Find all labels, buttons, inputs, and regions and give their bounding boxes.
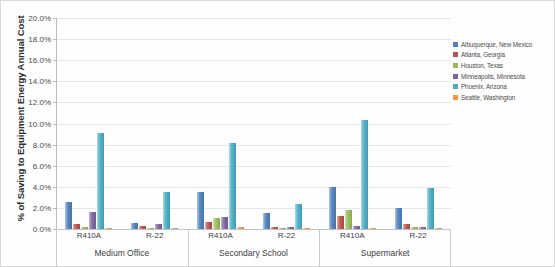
legend-label: Albuquerque, New Mexico — [461, 41, 532, 48]
legend-swatch-icon — [453, 63, 458, 68]
y-axis-tick-label: 14.0% — [28, 77, 51, 86]
y-axis-tick-label: 20.0% — [28, 14, 51, 23]
bar — [427, 188, 434, 229]
bar-group — [56, 18, 122, 229]
axis-separator — [56, 229, 57, 267]
y-axis-tick-label: 2.0% — [33, 203, 51, 212]
bar-groups — [56, 18, 451, 229]
y-axis-title: % of Saving to Equipment Energy Annual C… — [15, 4, 26, 234]
legend-item[interactable]: Minneapolis, Minnesota — [453, 71, 553, 82]
x-axis-tick-label: R410A — [188, 231, 254, 240]
bar-group — [253, 18, 319, 229]
y-axis-tick-label: 18.0% — [28, 35, 51, 44]
x-axis-tick-label: R410A — [56, 231, 122, 240]
legend-swatch-icon — [453, 52, 458, 57]
bar — [163, 192, 170, 229]
plot-area: 0.0%2.0%4.0%6.0%8.0%10.0%12.0%14.0%16.0%… — [56, 18, 451, 229]
x-axis-group-label: Supermarket — [319, 248, 451, 258]
bar — [213, 218, 220, 229]
bar — [295, 204, 302, 229]
bar-chart: % of Saving to Equipment Energy Annual C… — [0, 0, 555, 267]
x-axis-tick-label: R-22 — [385, 231, 451, 240]
y-axis-tick-label: 16.0% — [28, 56, 51, 65]
bar — [97, 133, 104, 229]
legend-swatch-icon — [453, 42, 458, 47]
legend-item[interactable]: Houston, Texas — [453, 60, 553, 71]
bar — [197, 192, 204, 229]
bar — [229, 143, 236, 230]
legend-label: Atlanta, Georgia — [461, 51, 505, 58]
bar — [89, 212, 96, 229]
bar-group — [385, 18, 451, 229]
bar — [263, 213, 270, 229]
y-axis-tick-label: 6.0% — [33, 161, 51, 170]
axis-separator — [188, 229, 189, 267]
bar — [345, 210, 352, 229]
legend-swatch-icon — [453, 95, 458, 100]
bar-group — [319, 18, 385, 229]
category-axis: R410AR-22R410AR-22R410AR-22Medium Office… — [56, 229, 451, 267]
legend-swatch-icon — [453, 74, 458, 79]
x-axis-group-label: Medium Office — [56, 248, 188, 258]
bar — [361, 120, 368, 229]
y-axis-tick-label: 12.0% — [28, 98, 51, 107]
x-axis-tick-label: R410A — [319, 231, 385, 240]
x-axis-tick-label: R-22 — [253, 231, 319, 240]
y-axis-tick-label: 4.0% — [33, 182, 51, 191]
x-axis-group-label: Secondary School — [188, 248, 320, 258]
x-axis-tick-label: R-22 — [122, 231, 188, 240]
bar-group — [122, 18, 188, 229]
bar — [205, 222, 212, 229]
legend-label: Seattle, Washington — [461, 94, 515, 101]
legend-label: Phoenix, Arizona — [461, 83, 507, 90]
legend: Albuquerque, New MexicoAtlanta, GeorgiaH… — [453, 39, 553, 103]
axis-separator — [319, 229, 320, 267]
legend-item[interactable]: Atlanta, Georgia — [453, 50, 553, 61]
legend-item[interactable]: Phoenix, Arizona — [453, 81, 553, 92]
bar-group — [188, 18, 254, 229]
legend-label: Houston, Texas — [461, 62, 503, 69]
y-axis-tick-label: 8.0% — [33, 140, 51, 149]
legend-item[interactable]: Seattle, Washington — [453, 92, 553, 103]
legend-swatch-icon — [453, 84, 458, 89]
y-axis-tick-label: 10.0% — [28, 119, 51, 128]
bar — [329, 187, 336, 229]
bar — [337, 216, 344, 229]
bar — [65, 202, 72, 229]
axis-separator — [450, 229, 451, 267]
legend-item[interactable]: Albuquerque, New Mexico — [453, 39, 553, 50]
y-axis-tick-label: 0.0% — [33, 225, 51, 234]
legend-label: Minneapolis, Minnesota — [461, 73, 525, 80]
bar — [221, 217, 228, 229]
bar — [395, 208, 402, 229]
